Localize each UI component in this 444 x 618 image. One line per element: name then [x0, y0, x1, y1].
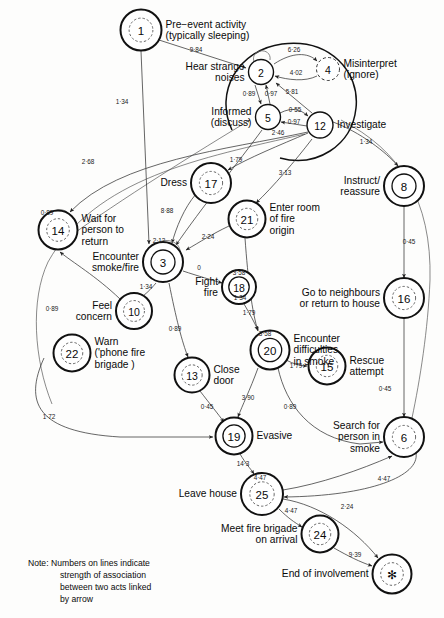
- node-label-10: Feelconcern: [76, 300, 112, 322]
- node-label-line: in smoke: [294, 356, 335, 367]
- node-label-line: of fire: [270, 213, 296, 224]
- node-8[interactable]: 8: [384, 166, 424, 206]
- node-number-24: 24: [314, 529, 327, 541]
- edge-weight-13-19: 0·45: [201, 403, 214, 410]
- self-loop-weight-25: 4·47: [254, 474, 267, 481]
- node-number-21: 21: [241, 214, 254, 226]
- node-10[interactable]: 10: [116, 293, 152, 329]
- node-label-19: Evasive: [257, 430, 293, 441]
- note-label: Note:: [28, 558, 49, 568]
- node-12[interactable]: 12: [307, 112, 333, 138]
- node-label-line: difficulties: [294, 344, 339, 355]
- edge-weight-25-star: 2·24: [341, 503, 354, 510]
- self-loop-weight-20: 3·58: [259, 330, 272, 337]
- node-number-18: 18: [233, 282, 245, 294]
- node-label-line: Warn: [95, 336, 119, 347]
- node-label-line: smoke/fire: [92, 262, 139, 273]
- edge-weight-16-6: 0·45: [379, 385, 392, 392]
- node-label-star: End of involvement: [282, 568, 369, 579]
- node-label-25: Leave house: [179, 488, 238, 499]
- node-label-14: Wait forperson toreturn: [82, 213, 125, 247]
- node-label-3: Encountersmoke/fire: [92, 251, 140, 273]
- edge-weight-12-8: 1·34: [360, 138, 373, 145]
- edge-12-to-17: [228, 133, 308, 170]
- node-label-line: smoke: [350, 443, 380, 454]
- node-label-15: Rescueattempt: [350, 355, 385, 377]
- node-6[interactable]: 6: [384, 417, 424, 457]
- self-loop-weight-18: 3·58: [233, 269, 246, 276]
- edge-3-to-13: [169, 283, 188, 357]
- node-label-20: Encounterdifficultiesin smoke: [294, 333, 341, 367]
- node-label-line: (ignore): [344, 69, 379, 80]
- node-star[interactable]: ✻: [373, 555, 412, 594]
- diagram-canvas: 12451281721143181016222015136192524✻ 9·8…: [0, 0, 444, 618]
- edge-weight-25-24: 4·47: [285, 507, 298, 514]
- node-label-line: on arrival: [256, 534, 298, 545]
- node-label-line: or return to house: [300, 298, 381, 309]
- edge-17-to-3: [172, 194, 196, 243]
- edge-weight-10-14: 0·89: [46, 305, 59, 312]
- node-label-line: Leave house: [179, 488, 238, 499]
- node-19[interactable]: 19: [216, 418, 253, 455]
- edge-18-to-20: [244, 304, 258, 330]
- node-3[interactable]: 3: [143, 242, 183, 282]
- node-label-line: person in: [338, 431, 380, 442]
- node-label-line: Search for: [333, 420, 381, 431]
- note-line-2: between two acts linked: [60, 582, 151, 592]
- node-label-12: Investigate: [337, 119, 387, 130]
- cluster-outline: [226, 43, 356, 160]
- node-label-8: Instruct/reassure: [340, 175, 380, 197]
- node-21[interactable]: 21: [229, 201, 266, 238]
- node-number-8: 8: [401, 181, 407, 193]
- node-number-22: 22: [66, 348, 79, 360]
- node-number-19: 19: [228, 431, 241, 443]
- node-label-line: fire: [204, 287, 218, 298]
- node-22[interactable]: 22: [54, 335, 91, 372]
- node-number-3: 3: [160, 257, 166, 269]
- node-16[interactable]: 16: [384, 278, 424, 318]
- node-label-line: Rescue: [350, 355, 385, 366]
- edge-weight-8-16: 0·45: [403, 238, 416, 245]
- node-label-line: ('phone fire: [95, 347, 146, 358]
- node-number-1: 1: [138, 25, 144, 37]
- node-number-10: 10: [128, 306, 140, 318]
- edge-weight-19-25: 14·3: [237, 460, 250, 467]
- node-label-line: concern: [76, 311, 112, 322]
- edge-2-to-4: [274, 55, 317, 64]
- node-5[interactable]: 5: [256, 105, 281, 130]
- node-number-6: 6: [401, 432, 407, 444]
- node-label-22: Warn('phone firebrigade ): [95, 336, 146, 370]
- node-label-line: Fight: [195, 276, 218, 287]
- node-label-18: Fightfire: [195, 276, 218, 298]
- node-label-13: Closedoor: [214, 364, 240, 386]
- node-label-line: Misinterpret: [344, 58, 397, 69]
- node-label-line: attempt: [350, 366, 384, 377]
- node-label-line: Encounter: [294, 333, 341, 344]
- node-label-line: Pre−event activity: [166, 19, 248, 30]
- node-number-20: 20: [264, 345, 277, 357]
- node-17[interactable]: 17: [191, 163, 231, 203]
- node-2[interactable]: 2: [249, 60, 274, 85]
- node-label-line: Enter room: [270, 202, 320, 213]
- node-label-16: Go to neighboursor return to house: [300, 287, 381, 309]
- node-number-5: 5: [265, 112, 271, 124]
- edge-weight-3-18: 0: [197, 264, 201, 271]
- node-13[interactable]: 13: [175, 358, 210, 393]
- node-number-16: 16: [398, 293, 411, 305]
- node-1[interactable]: 1: [121, 10, 162, 51]
- node-14[interactable]: 14: [39, 211, 78, 250]
- node-label-line: End of involvement: [282, 568, 369, 579]
- node-4[interactable]: 4: [317, 58, 340, 81]
- edge-20-to-19: [238, 368, 258, 417]
- node-number-25: 25: [256, 489, 269, 501]
- node-label-line: Dress: [160, 177, 187, 188]
- edge-weight-3-13: 0·89: [169, 325, 182, 332]
- node-number-2: 2: [258, 67, 264, 79]
- node-label-line: Informed: [211, 106, 252, 117]
- node-label-line: (typically sleeping): [166, 30, 250, 41]
- node-number-14: 14: [52, 225, 65, 237]
- edge-4-to-2: [275, 76, 317, 80]
- edge-weight-12-5: 0·97: [288, 118, 301, 125]
- edge-weight-20-19: 3·90: [242, 394, 255, 401]
- node-24[interactable]: 24: [302, 516, 339, 553]
